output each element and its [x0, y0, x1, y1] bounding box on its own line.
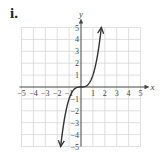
x-tick-label: −4	[29, 89, 38, 98]
x-axis-arrow-icon	[145, 85, 150, 89]
x-tick-label: 5	[139, 89, 143, 98]
x-tick-label: 3	[115, 89, 119, 98]
y-tick-label: −2	[70, 107, 79, 116]
y-axis-label: y	[78, 9, 83, 19]
axes: xy	[20, 9, 155, 147]
x-tick-label: −5	[17, 89, 26, 98]
x-tick-label: 1	[91, 89, 95, 98]
y-tick-label: 1	[75, 71, 79, 80]
x-tick-label: 2	[103, 89, 107, 98]
y-tick-label: 3	[75, 47, 79, 56]
y-axis-arrow-icon	[79, 19, 83, 24]
y-tick-label: −1	[70, 95, 79, 104]
cubic-function-graph: xy −5−4−3−2−11234554321−1−2−3−4−5	[0, 0, 160, 152]
y-tick-label: −5	[70, 143, 79, 152]
y-tick-label: −3	[70, 119, 79, 128]
x-tick-label: −3	[41, 89, 50, 98]
y-tick-label: −4	[70, 131, 79, 140]
y-tick-label: 5	[75, 24, 79, 33]
y-tick-label: 2	[75, 59, 79, 68]
y-tick-label: 4	[75, 35, 79, 44]
x-tick-label: −2	[53, 89, 62, 98]
x-tick-label: 4	[127, 89, 131, 98]
x-axis-label: x	[150, 82, 155, 92]
